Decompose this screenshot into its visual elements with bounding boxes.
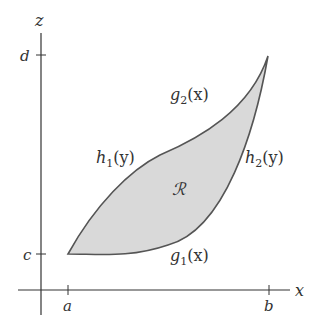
z-axis-label: z xyxy=(34,11,44,30)
tick-label-c: c xyxy=(23,246,32,264)
region-label: ℛ xyxy=(172,179,187,199)
region-diagram: z x d c a b g2(x) h1(y) h2(y) g1(x) ℛ xyxy=(0,0,326,331)
tick-label-d: d xyxy=(20,47,30,65)
label-h1: h1(y) xyxy=(96,148,135,170)
label-g2: g2(x) xyxy=(170,85,209,107)
tick-label-b: b xyxy=(264,297,274,315)
label-g1: g1(x) xyxy=(170,246,209,268)
label-h2: h2(y) xyxy=(245,148,284,170)
tick-label-a: a xyxy=(63,297,72,315)
x-axis-label: x xyxy=(295,281,304,300)
